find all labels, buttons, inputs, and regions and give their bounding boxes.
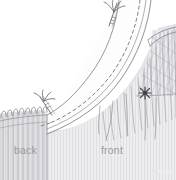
label-back: back: [14, 144, 37, 156]
label-front: front: [101, 144, 123, 156]
thread-knot-starburst: [139, 87, 151, 99]
figure-caption: fig.: [152, 168, 160, 174]
illustration-canvas: back front fig.: [0, 0, 176, 180]
